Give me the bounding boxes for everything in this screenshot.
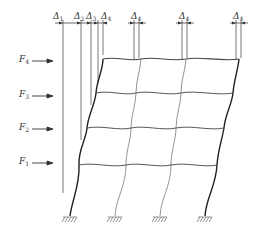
force-label-f3: F3 <box>19 90 29 100</box>
displacement-label-delta3: Δ3 <box>86 12 96 22</box>
column-1 <box>70 59 103 216</box>
displacement-label-delta4-col2: Δ4 <box>131 12 141 22</box>
beam-floor-3 <box>96 92 233 94</box>
column-2 <box>115 59 141 216</box>
beam-floor-1 <box>79 164 217 166</box>
displacement-label-delta4-col3: Δ4 <box>179 12 189 22</box>
beam-floor-2 <box>87 127 224 129</box>
fixed-supports <box>62 217 212 222</box>
deformed-columns <box>70 59 239 216</box>
beam-roof <box>103 58 239 60</box>
deformed-beams <box>79 58 239 166</box>
displacement-label-delta4: Δ4 <box>101 12 111 22</box>
force-label-f4: F4 <box>19 55 29 65</box>
force-label-f2: F2 <box>19 123 29 133</box>
displacement-label-delta4-col4: Δ4 <box>233 12 243 22</box>
column-4 <box>205 59 239 216</box>
force-label-f1: F1 <box>19 157 29 167</box>
force-arrows <box>32 59 53 165</box>
displacement-label-delta2: Δ2 <box>74 12 84 22</box>
displacement-label-delta1: Δ1 <box>53 12 63 22</box>
diagram-canvas <box>0 0 255 242</box>
column-3 <box>160 59 186 216</box>
displacement-reference-lines <box>63 20 241 193</box>
